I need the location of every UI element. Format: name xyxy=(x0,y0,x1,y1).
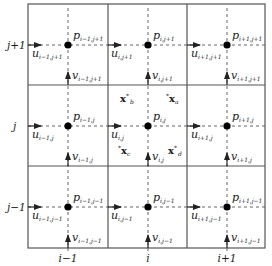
pressure-node-icon xyxy=(144,203,151,210)
point-label-c: *xc xyxy=(118,144,131,157)
row-label-j-plus-1: j+1 xyxy=(5,39,26,51)
row-label-j-minus-1: j−1 xyxy=(5,201,26,213)
cell-labels-row-j-plus-1: pi−1,j+1 ui−1,j+1 vi−1,j+1 pi,j+1 ui,j+1… xyxy=(32,29,262,83)
pressure-node-icon xyxy=(144,122,151,129)
p-label: pi−1,j−1 xyxy=(73,191,103,205)
v-label: vi−1,j xyxy=(72,150,93,164)
pressure-node-icon xyxy=(64,122,71,129)
staggered-grid-diagram: pi−1,j+1 ui−1,j+1 vi−1,j+1 pi,j+1 ui,j+1… xyxy=(0,0,272,266)
pressure-node-icon xyxy=(223,122,230,129)
u-label: ui,j xyxy=(111,128,124,142)
p-label: pi+1,j−1 xyxy=(232,191,262,205)
p-label: pi−1,j+1 xyxy=(73,29,103,43)
u-label: ui+1,j+1 xyxy=(191,47,221,61)
pressure-node-icon xyxy=(64,41,71,48)
u-label: ui−1,j−1 xyxy=(32,209,62,223)
point-label-a: *xa xyxy=(166,92,179,105)
p-label: pi−1,j xyxy=(73,110,95,124)
point-label-b: x*b xyxy=(120,92,134,105)
column-label-i: i xyxy=(146,252,149,264)
column-axis-labels: i−1 i i+1 xyxy=(59,252,237,264)
v-label: vi,j−1 xyxy=(152,231,173,245)
pressure-node-icon xyxy=(64,203,71,210)
v-label: vi,j xyxy=(152,150,164,164)
row-label-j: j xyxy=(11,120,17,132)
p-label: pi,j−1 xyxy=(153,191,175,205)
row-axis-labels: j+1 j j−1 xyxy=(5,39,26,213)
u-label: ui,j+1 xyxy=(111,47,133,61)
v-label: vi+1,j xyxy=(231,150,252,164)
column-label-i-plus-1: i+1 xyxy=(218,252,237,264)
v-label: vi+1,j+1 xyxy=(231,69,261,83)
u-label: ui+1,j−1 xyxy=(191,209,221,223)
u-label: ui−1,j xyxy=(32,128,54,142)
v-label: vi−1,j+1 xyxy=(72,69,102,83)
v-label: vi,j+1 xyxy=(152,69,173,83)
p-label: pi+1,j xyxy=(232,110,254,124)
v-label: vi−1,j−1 xyxy=(72,231,102,245)
p-label: pi,j+1 xyxy=(153,29,175,43)
p-label: pi,j xyxy=(153,110,166,124)
v-label: vi+1,j−1 xyxy=(231,231,261,245)
pressure-node-icon xyxy=(223,203,230,210)
column-label-i-minus-1: i−1 xyxy=(59,252,78,264)
pressure-node-icon xyxy=(223,41,230,48)
u-label: ui,j−1 xyxy=(111,209,133,223)
u-label: ui−1,j+1 xyxy=(32,47,62,61)
cell-labels-row-j: pi−1,j ui−1,j vi−1,j pi,j ui,j vi,j pi+1… xyxy=(32,110,254,164)
point-label-d: x*d xyxy=(168,144,182,157)
u-label: ui+1,j xyxy=(191,128,213,142)
p-label: pi+1,j+1 xyxy=(232,29,262,43)
cell-labels-row-j-minus-1: pi−1,j−1 ui−1,j−1 vi−1,j−1 pi,j−1 ui,j−1… xyxy=(32,191,262,245)
pressure-node-icon xyxy=(144,41,151,48)
